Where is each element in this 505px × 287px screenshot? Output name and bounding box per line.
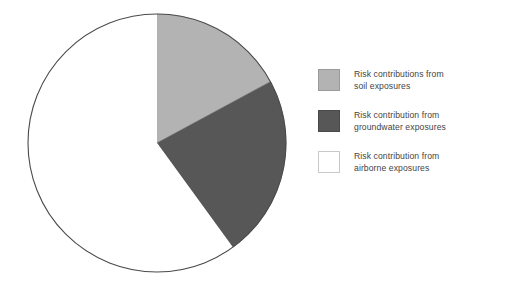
legend-item-soil: Risk contributions from soil exposures bbox=[318, 68, 503, 92]
airborne-swatch bbox=[318, 151, 340, 173]
pie-slice-group bbox=[28, 14, 286, 272]
soil-swatch bbox=[318, 69, 340, 91]
legend-item-groundwater: Risk contribution from groundwater expos… bbox=[318, 109, 503, 133]
pie-chart-svg bbox=[20, 6, 302, 286]
groundwater-swatch bbox=[318, 110, 340, 132]
legend-label-soil: Risk contributions from soil exposures bbox=[354, 68, 444, 92]
pie-chart-figure: Risk contributions from soil exposures R… bbox=[0, 0, 505, 287]
legend-label-airborne: Risk contribution from airborne exposure… bbox=[354, 150, 439, 174]
legend-item-airborne: Risk contribution from airborne exposure… bbox=[318, 150, 503, 174]
legend-label-groundwater: Risk contribution from groundwater expos… bbox=[354, 109, 446, 133]
chart-legend: Risk contributions from soil exposures R… bbox=[318, 68, 503, 175]
pie-chart-area bbox=[20, 6, 302, 286]
